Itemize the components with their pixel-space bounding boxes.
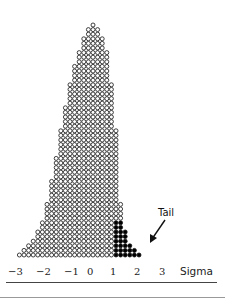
dot [68,124,72,128]
dot [77,198,81,202]
dot [82,193,86,197]
dot [73,184,77,188]
dot [59,244,63,248]
dot [114,152,118,156]
dot [91,189,95,193]
dot [68,87,72,91]
dot [86,41,90,45]
dot [77,175,81,179]
dot [77,83,81,87]
dot [96,161,100,165]
dot [68,184,72,188]
dot [91,212,95,216]
dot [54,184,58,188]
dot [91,92,95,96]
dot [68,248,72,252]
x-tick-label: −1 [64,266,79,277]
dot [109,152,113,156]
dot [100,124,104,128]
dot [27,248,31,252]
dot [96,189,100,193]
dot [96,69,100,73]
dot [91,110,95,114]
dot [86,230,90,234]
dot [82,161,86,165]
dot [40,225,44,229]
dot [105,212,109,216]
dot [100,235,104,239]
dot [100,60,104,64]
dot [63,147,67,151]
dot [77,120,81,124]
dot [68,83,72,87]
dot [114,212,118,216]
dot [96,110,100,114]
dot [50,248,54,252]
dot [77,60,81,64]
dot [114,193,118,197]
dot [100,46,104,50]
dot [63,216,67,220]
tail-dot [132,253,136,257]
dot [82,78,86,82]
dot [73,143,77,147]
dot [86,97,90,101]
dot [59,207,63,211]
dot [45,202,49,206]
dot [114,138,118,142]
dot [96,152,100,156]
dot [59,147,63,151]
dot [59,175,63,179]
dot [105,138,109,142]
dot [54,239,58,243]
dot [105,207,109,211]
dot [59,152,63,156]
x-tick-label: 0 [87,266,93,277]
dot [100,92,104,96]
dot [105,230,109,234]
dot [91,253,95,257]
tail-dot [128,244,132,248]
dot [73,152,77,156]
dot [54,161,58,165]
dot [82,69,86,73]
dot [59,179,63,183]
dot [50,189,54,193]
dot [82,37,86,41]
dot [73,106,77,110]
dot [36,244,40,248]
dot [73,221,77,225]
dot [96,253,100,257]
dot [119,212,123,216]
dot [59,239,63,243]
dot [73,69,77,73]
dot [96,156,100,160]
dot [114,170,118,174]
dot [63,161,67,165]
dot [59,170,63,174]
dot [109,133,113,137]
dot [100,248,104,252]
tail-annotation: Tail [158,207,174,218]
dot [73,74,77,78]
dot [45,248,49,252]
dot [68,193,72,197]
dot [82,60,86,64]
dot [50,230,54,234]
dot [114,202,118,206]
dot [109,138,113,142]
dot [68,143,72,147]
dot [73,78,77,82]
tail-dot [119,235,123,239]
dot [105,92,109,96]
dot [82,253,86,257]
dot [63,129,67,133]
dot [82,179,86,183]
dot [86,106,90,110]
dot [96,225,100,229]
dot [54,175,58,179]
dot [86,152,90,156]
dot [105,193,109,197]
dot [96,179,100,183]
dot [100,230,104,234]
